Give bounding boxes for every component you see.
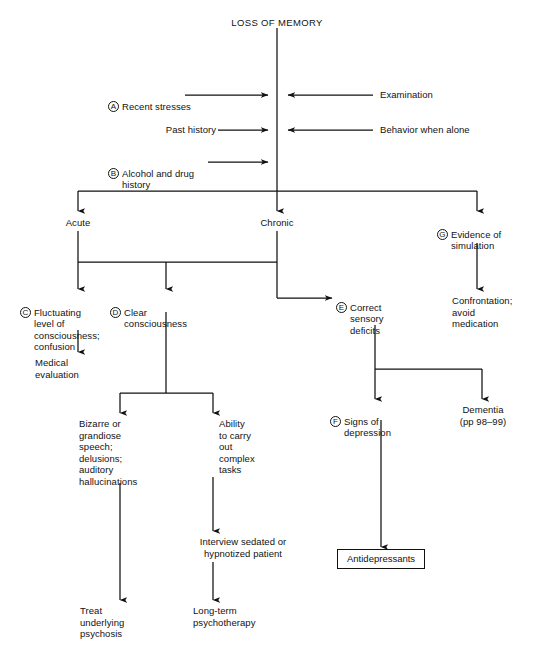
node-evidence-of-simulation: G Evidence of simulation [437,217,501,263]
page-title: LOSS OF MEMORY [231,17,322,29]
node-bizarre-speech: Bizarre or grandiose speech; delusions; … [79,418,137,488]
key-badge-c: C [20,307,31,318]
node-recent-stresses: A Recent stresses [108,89,191,124]
node-antidepressants-label: Antidepressants [337,549,425,569]
node-interview-sedated: Interview sedated or hypnotized patient [200,536,287,559]
node-dementia: Dementia (pp 98–99) [460,404,506,427]
node-acute: Acute [66,217,91,229]
key-badge-d: D [110,307,121,318]
node-examination: Examination [380,89,433,101]
node-fluctuating-consciousness: C Fluctuating level of consciousness; co… [20,295,100,365]
node-confrontation: Confrontation; avoid medication [452,295,512,330]
node-correct-sensory-deficits-label: Correct sensory deficits [350,302,384,337]
node-past-history: Past history [70,124,216,136]
node-signs-of-depression: F Signs of depression [330,404,391,450]
flowchart-page: LOSS OF MEMORY A Recent stresses Examina… [0,0,544,664]
node-recent-stresses-label: Recent stresses [122,101,191,113]
key-badge-a: A [108,101,119,112]
node-ability-complex-tasks: Ability to carry out complex tasks [219,418,255,476]
node-signs-of-depression-label: Signs of depression [344,416,391,439]
node-long-term-psychotherapy: Long-term psychotherapy [193,605,255,628]
node-evidence-of-simulation-label: Evidence of simulation [451,229,501,252]
key-badge-g: G [437,229,448,240]
node-chronic: Chronic [260,217,293,229]
node-medical-evaluation: Medical evaluation [35,357,79,380]
node-behavior-when-alone: Behavior when alone [380,124,470,136]
key-badge-b: B [108,168,119,179]
node-correct-sensory-deficits: E Correct sensory deficits [336,290,384,348]
key-badge-e: E [336,302,347,313]
node-clear-consciousness: D Clear consciousness [110,295,187,341]
key-badge-f: F [330,416,341,427]
node-treat-underlying-psychosis: Treat underlying psychosis [80,605,124,640]
node-clear-consciousness-label: Clear consciousness [124,307,187,330]
node-alcohol-drug-history-label: Alcohol and drug history [122,168,194,191]
node-antidepressants: Antidepressants [337,549,425,569]
node-fluctuating-consciousness-label: Fluctuating level of consciousness; conf… [34,307,100,353]
node-alcohol-drug-history: B Alcohol and drug history [108,156,194,202]
